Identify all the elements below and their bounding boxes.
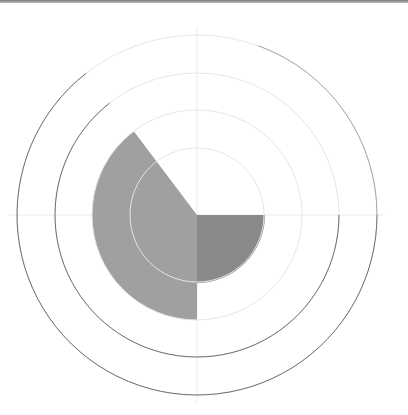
polar-area-chart [0, 0, 408, 415]
grid-ring-outer-upper-arc [259, 46, 377, 215]
